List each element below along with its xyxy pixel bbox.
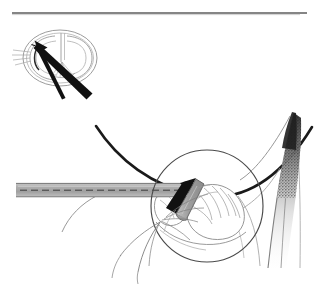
inset-vessel-wisps — [12, 50, 31, 65]
tissue-flap — [226, 108, 310, 273]
illustration-canvas — [0, 0, 316, 284]
inset-right-chamber-inner — [67, 41, 86, 75]
anatomical-inset — [12, 30, 97, 100]
figure-root: Surgical technique illustration Line-art… — [0, 0, 316, 284]
instrument-shaft — [16, 183, 188, 197]
header-rule — [12, 13, 307, 15]
inset-right-chamber — [67, 36, 92, 80]
